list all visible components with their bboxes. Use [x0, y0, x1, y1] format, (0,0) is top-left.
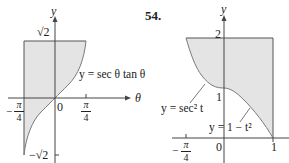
left-x-axis-label: θ: [135, 92, 141, 104]
right-neg-pi4-label: π 4: [181, 140, 191, 163]
left-neg-pi4-label: π 4: [14, 100, 24, 123]
right-sec2-label: y = sec² t: [161, 103, 203, 115]
right-y-axis-label: y: [221, 3, 226, 15]
left-curve-label: y = sec θ tan θ: [79, 69, 145, 81]
right-leader-1mt2: [240, 108, 250, 122]
left-x-arrow-icon: [125, 96, 131, 101]
right-neg-sign: −: [172, 144, 178, 156]
pi-symbol: π: [16, 100, 21, 110]
pi-symbol: π: [183, 140, 188, 150]
right-origin-label: 0: [216, 141, 222, 153]
pi-symbol: π: [83, 100, 88, 110]
denominator: 4: [17, 113, 22, 123]
denominator: 4: [84, 113, 89, 123]
left-y-axis-label: y: [51, 5, 56, 17]
right-y1-label: 1: [216, 91, 222, 103]
right-leader-sec2: [190, 84, 205, 103]
denominator: 4: [184, 153, 189, 163]
left-graph: [8, 16, 131, 163]
left-neg-sqrt2-label: −√2: [29, 149, 48, 161]
right-y2-label: 2: [215, 28, 221, 40]
left-neg-sign: −: [6, 105, 12, 117]
left-pi4-label: π 4: [81, 100, 91, 123]
right-x1-label: 1: [271, 141, 277, 153]
right-1mt2-label: y = 1 − t²: [209, 122, 252, 134]
left-origin-label: 0: [57, 101, 63, 113]
left-sqrt2-label: √2: [37, 26, 50, 38]
problem-number: 54.: [145, 9, 161, 22]
